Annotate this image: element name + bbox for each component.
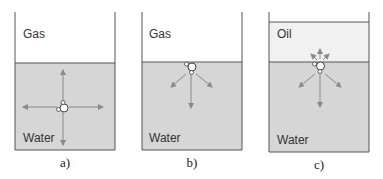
water-label-c: Water — [277, 133, 309, 147]
oil-label-c: Oil — [277, 27, 292, 41]
gas-label-a: Gas — [23, 27, 45, 41]
water-label-a: Water — [23, 131, 55, 145]
water-label-b: Water — [149, 131, 181, 145]
caption-b: b) — [142, 155, 242, 171]
caption-c: c) — [269, 157, 369, 173]
gas-label-b: Gas — [149, 27, 171, 41]
caption-a: a) — [15, 155, 115, 171]
diagram-canvas — [0, 0, 383, 179]
